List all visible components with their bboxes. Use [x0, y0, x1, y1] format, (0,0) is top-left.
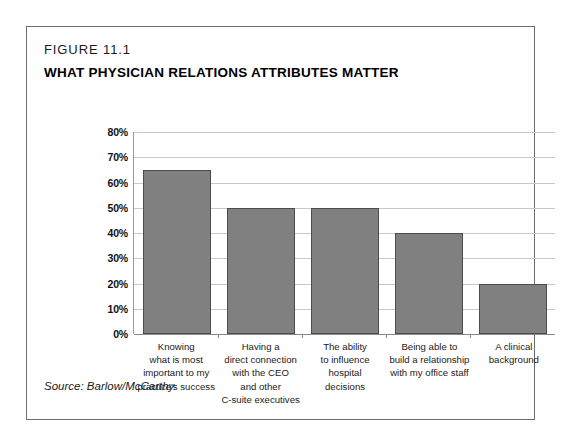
bar-slot — [471, 132, 555, 334]
bar — [143, 170, 210, 334]
bar-slot — [135, 132, 219, 334]
y-axis-tick-label: 40% — [108, 227, 128, 239]
x-axis-tick — [218, 334, 219, 338]
y-axis-tick-label: 0% — [113, 328, 128, 340]
x-axis-tick — [302, 334, 303, 338]
bar-slot — [219, 132, 303, 334]
y-axis-tick-label: 60% — [108, 177, 128, 189]
figure-number: FIGURE 11.1 — [44, 42, 131, 57]
bar — [311, 208, 378, 334]
y-axis-tick-label: 80% — [108, 126, 128, 138]
bar-chart: 80%70%60%50%40%30%20%10%0% — [107, 126, 559, 341]
y-axis-tick-label: 30% — [108, 252, 128, 264]
bar — [227, 208, 294, 334]
y-axis-tick-label: 10% — [108, 303, 128, 315]
y-axis-tick-label: 70% — [108, 151, 128, 163]
x-axis-category-label: Being able tobuild a relationshipwith my… — [387, 340, 471, 406]
x-axis-tick — [386, 334, 387, 338]
bar — [395, 233, 462, 334]
figure-container: FIGURE 11.1 WHAT PHYSICIAN RELATIONS ATT… — [26, 26, 535, 420]
x-axis-category-labels: Knowingwhat is mostimportant to mypracti… — [134, 340, 556, 406]
bar-series — [135, 132, 555, 334]
figure-title: WHAT PHYSICIAN RELATIONS ATTRIBUTES MATT… — [44, 65, 399, 80]
x-axis-category-label: Knowingwhat is mostimportant to mypracti… — [134, 340, 218, 406]
x-axis-category-label: Having adirect connectionwith the CEOand… — [218, 340, 302, 406]
x-axis-baseline: 0% — [134, 334, 555, 335]
x-axis-tick — [470, 334, 471, 338]
bar-slot — [387, 132, 471, 334]
bar-slot — [303, 132, 387, 334]
y-axis-tick-label: 50% — [108, 202, 128, 214]
plot-area: 80%70%60%50%40%30%20%10%0% — [133, 132, 555, 334]
y-axis-tick-label: 20% — [108, 278, 128, 290]
source-note: Source: Barlow/McCarthy. — [44, 380, 177, 392]
x-axis-category-label: The abilityto influencehospitaldecisions — [303, 340, 387, 406]
x-axis-category-label: A clinicalbackground — [472, 340, 556, 406]
bar — [479, 284, 546, 335]
